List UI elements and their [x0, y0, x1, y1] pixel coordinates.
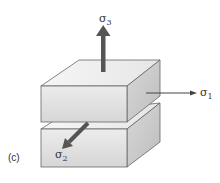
- sigma1-label: σ1: [200, 86, 213, 101]
- lower-block-front-face: [41, 129, 127, 167]
- sigma3-label: σ3: [99, 12, 112, 27]
- upper-block-front-face: [41, 86, 127, 122]
- diagram-canvas: σ3 σ1 σ2 (c): [0, 0, 220, 183]
- panel-label: (c): [8, 152, 20, 163]
- stress-diagram: σ3 σ1 σ2 (c): [0, 0, 220, 183]
